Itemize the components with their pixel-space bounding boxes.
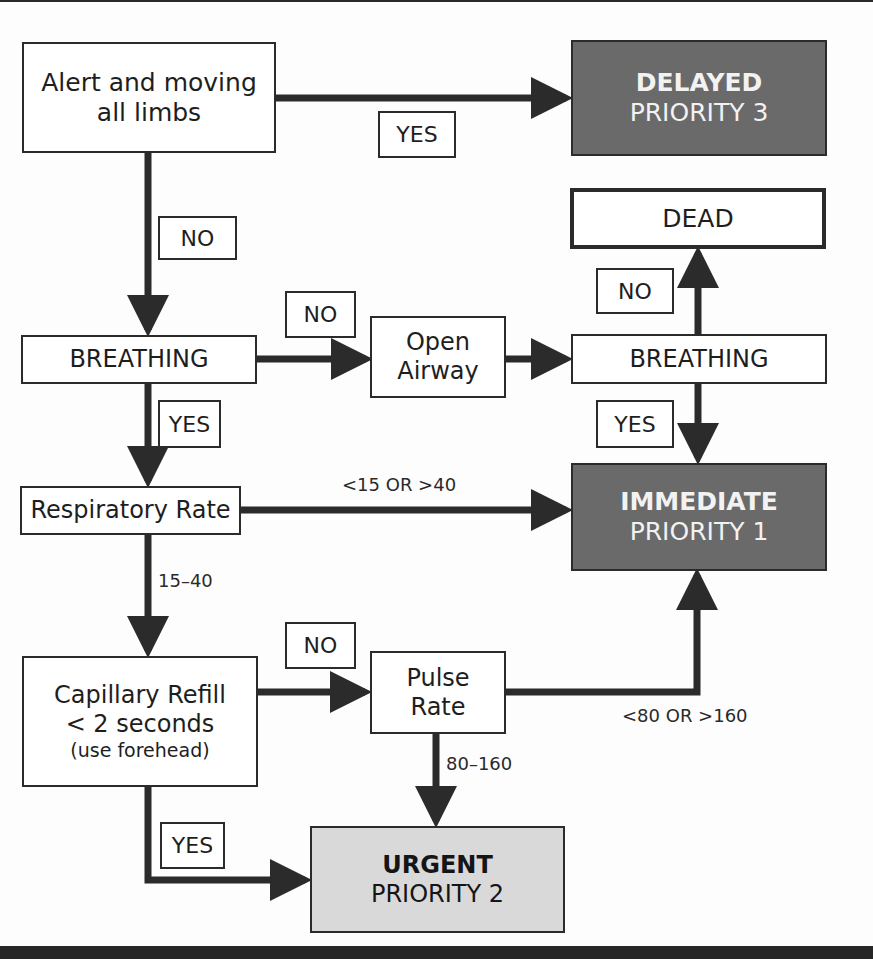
node-breathing-after-airway-label: BREATHING [629,345,768,374]
node-breathing-initial-label: BREATHING [69,345,208,374]
node-breathing-after-airway: BREATHING [571,334,827,384]
node-pulse-line1: Pulse [406,664,469,693]
node-open-airway: Open Airway [370,316,506,398]
node-capillary-refill: Capillary Refill < 2 seconds (use forehe… [22,656,258,787]
tag-breathing-yes: YES [158,400,221,448]
node-alert-line2: all limbs [97,98,201,128]
tag-alert-yes: YES [378,111,456,158]
node-alert-moving-limbs: Alert and moving all limbs [22,42,276,153]
node-capillary-line3: (use forehead) [70,739,209,762]
node-urgent-subtitle: PRIORITY 2 [371,880,504,909]
label-pulse-normal: 80–160 [446,753,512,774]
top-rule [0,0,873,2]
tag-capillary-yes: YES [160,822,225,869]
node-open-airway-line2: Airway [397,357,479,386]
node-dead: DEAD [570,188,826,249]
node-immediate-subtitle: PRIORITY 1 [630,517,769,547]
node-immediate-priority-1: IMMEDIATE PRIORITY 1 [571,463,827,571]
node-pulse-line2: Rate [410,693,465,722]
tag-capillary-no: NO [285,622,356,669]
tag-airway-no: NO [596,268,674,314]
label-resp-abnormal: <15 OR >40 [342,474,456,495]
node-delayed-title: DELAYED [636,68,763,98]
node-respiratory-rate-label: Respiratory Rate [30,496,230,525]
node-delayed-subtitle: PRIORITY 3 [630,98,769,128]
node-pulse-rate: Pulse Rate [370,651,506,734]
label-pulse-abnormal: <80 OR >160 [622,705,748,726]
tag-airway-yes: YES [596,400,674,448]
node-capillary-line2: < 2 seconds [66,710,215,739]
node-breathing-initial: BREATHING [21,335,257,384]
node-immediate-title: IMMEDIATE [620,487,778,517]
node-capillary-line1: Capillary Refill [54,681,226,710]
label-resp-normal: 15–40 [158,570,213,591]
node-dead-label: DEAD [662,204,733,234]
node-alert-line1: Alert and moving [41,68,257,98]
node-urgent-title: URGENT [382,851,493,880]
node-delayed-priority-3: DELAYED PRIORITY 3 [571,40,827,156]
tag-alert-no: NO [158,216,237,260]
node-open-airway-line1: Open [406,328,470,357]
bottom-rule [0,946,873,959]
node-respiratory-rate: Respiratory Rate [20,486,241,535]
node-urgent-priority-2: URGENT PRIORITY 2 [310,826,565,933]
tag-breathing-no: NO [285,291,356,338]
